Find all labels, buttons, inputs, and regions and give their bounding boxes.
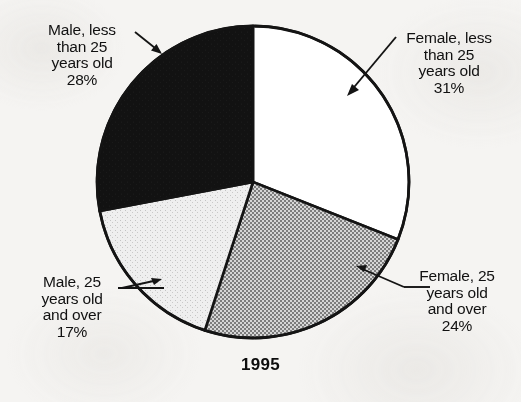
slice-label-male-under-25: Male, less than 25 years old 28% — [6, 22, 158, 88]
label-line-1: Female, 25 — [398, 268, 516, 285]
label-value: 28% — [6, 72, 158, 89]
label-line-3: and over — [2, 307, 142, 324]
label-line-1: Female, less — [382, 30, 516, 47]
label-line-2: than 25 — [6, 39, 158, 56]
label-line-3: years old — [6, 55, 158, 72]
label-line-3: years old — [382, 63, 516, 80]
label-line-2: than 25 — [382, 47, 516, 64]
label-line-3: and over — [398, 301, 516, 318]
label-value: 31% — [382, 80, 516, 97]
label-value: 17% — [2, 324, 142, 341]
pie-chart-figure: Male, less than 25 years old 28% Female,… — [0, 0, 521, 402]
slice-label-female-under-25: Female, less than 25 years old 31% — [382, 30, 516, 96]
slice-label-female-25-and-over: Female, 25 years old and over 24% — [398, 268, 516, 334]
slice-label-male-25-and-over: Male, 25 years old and over 17% — [2, 274, 142, 340]
label-line-1: Male, 25 — [2, 274, 142, 291]
label-line-1: Male, less — [6, 22, 158, 39]
label-value: 24% — [398, 318, 516, 335]
label-line-2: years old — [2, 291, 142, 308]
chart-title: 1995 — [0, 355, 521, 375]
label-line-2: years old — [398, 285, 516, 302]
